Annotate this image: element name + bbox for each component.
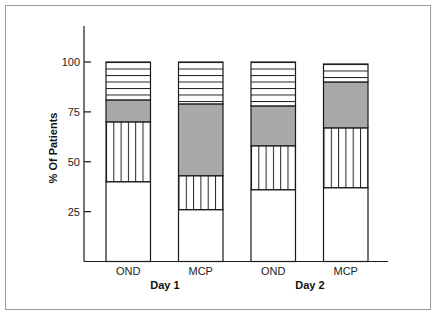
bar-day-1-mcp	[179, 62, 224, 262]
bar-segment-vertical-lines	[251, 146, 296, 190]
x-labels: ONDMCPONDMCPDay 1Day 2	[116, 265, 358, 291]
stacked-bar-chart: 255075100 ONDMCPONDMCPDay 1Day 2 % Of Pa…	[0, 0, 436, 318]
y-tick-label: 100	[62, 56, 80, 68]
bar-segment-vertical-lines	[324, 128, 369, 188]
bar-segment-solid-gray	[251, 106, 296, 146]
bar-segment-none	[324, 188, 369, 262]
x-category-label: OND	[261, 265, 286, 277]
y-tick-label: 50	[68, 156, 80, 168]
x-group-label: Day 1	[150, 279, 179, 291]
bar-segment-horizontal-lines	[324, 64, 369, 82]
bar-segment-horizontal-lines	[251, 62, 296, 106]
bar-day-2-mcp	[324, 64, 369, 262]
bar-segment-none	[106, 182, 151, 262]
y-tick-label: 75	[68, 106, 80, 118]
x-group-label: Day 2	[295, 279, 324, 291]
bar-segment-horizontal-lines	[179, 62, 224, 104]
bar-day-2-ond	[251, 62, 296, 262]
bar-segment-vertical-lines	[106, 122, 151, 182]
bar-segment-solid-gray	[324, 82, 369, 128]
y-axis-label: % Of Patients	[47, 113, 59, 184]
bar-day-1-ond	[106, 62, 151, 262]
bar-segment-none	[251, 190, 296, 262]
y-tick-label: 25	[68, 206, 80, 218]
x-category-label: MCP	[189, 265, 213, 277]
x-category-label: MCP	[334, 265, 358, 277]
y-ticks: 255075100	[62, 56, 91, 218]
bar-segment-vertical-lines	[179, 176, 224, 210]
bar-segment-solid-gray	[106, 100, 151, 122]
x-category-label: OND	[116, 265, 141, 277]
bars-group	[106, 62, 368, 262]
bar-segment-none	[179, 210, 224, 262]
bar-segment-solid-gray	[179, 104, 224, 176]
bar-segment-horizontal-lines	[106, 62, 151, 100]
